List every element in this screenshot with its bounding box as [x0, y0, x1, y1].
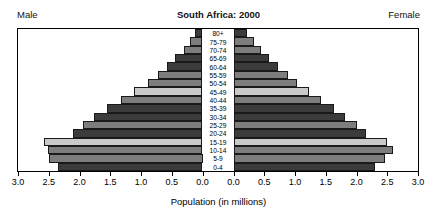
pyramid-row: 45-49 — [18, 87, 418, 95]
x-tick — [234, 172, 235, 176]
bar-female-65-69 — [234, 54, 270, 62]
x-tick — [172, 172, 173, 176]
x-tick — [418, 172, 419, 176]
bar-female-5-9 — [234, 154, 385, 162]
x-tick — [80, 172, 81, 176]
bar-male-25-29 — [83, 121, 203, 129]
bar-male-60-64 — [167, 62, 203, 70]
x-tick — [264, 172, 265, 176]
x-tick-label: 1.5 — [311, 177, 341, 188]
bar-male-0-4 — [58, 163, 203, 171]
bar-female-40-44 — [234, 96, 321, 104]
x-tick — [110, 172, 111, 176]
pyramid-row: 75-79 — [18, 37, 418, 45]
x-tick-label: 1.5 — [95, 177, 125, 188]
bars-container: 80+75-7970-7465-6960-6455-5950-5445-4940… — [18, 29, 418, 171]
x-tick-label: 0.5 — [249, 177, 279, 188]
pyramid-row: 40-44 — [18, 96, 418, 104]
bar-female-75-79 — [234, 37, 254, 45]
x-axis: 3.02.52.01.51.00.50.00.00.51.01.52.02.53… — [17, 172, 419, 194]
population-pyramid-figure: Male South Africa: 2000 Female 80+75-797… — [0, 0, 437, 216]
bar-female-15-19 — [234, 138, 388, 146]
x-tick-label: 0.0 — [188, 177, 218, 188]
bar-male-30-34 — [94, 113, 203, 121]
x-tick-label: 0.0 — [219, 177, 249, 188]
bar-female-80+ — [234, 29, 248, 37]
x-tick-label: 3.0 — [3, 177, 33, 188]
bar-female-45-49 — [234, 87, 310, 95]
plot-area: 80+75-7970-7465-6960-6455-5950-5445-4940… — [17, 28, 419, 172]
pyramid-row: 50-54 — [18, 79, 418, 87]
pyramid-row: 80+ — [18, 29, 418, 37]
pyramid-row: 35-39 — [18, 104, 418, 112]
bar-female-0-4 — [234, 163, 375, 171]
pyramid-row: 20-24 — [18, 129, 418, 137]
x-tick — [387, 172, 388, 176]
x-tick — [357, 172, 358, 176]
bar-female-60-64 — [234, 62, 279, 70]
pyramid-row: 15-19 — [18, 138, 418, 146]
pyramid-row: 5-9 — [18, 154, 418, 162]
bar-male-45-49 — [134, 87, 203, 95]
bar-male-20-24 — [73, 129, 202, 137]
bar-male-5-9 — [49, 154, 203, 162]
bar-female-35-39 — [234, 104, 334, 112]
x-axis-title: Population (in millions) — [0, 196, 437, 207]
x-tick — [141, 172, 142, 176]
pyramid-row: 70-74 — [18, 46, 418, 54]
pyramid-row: 65-69 — [18, 54, 418, 62]
x-tick — [49, 172, 50, 176]
bar-female-70-74 — [234, 46, 261, 54]
pyramid-row: 10-14 — [18, 146, 418, 154]
pyramid-row: 25-29 — [18, 121, 418, 129]
bar-female-55-59 — [234, 71, 288, 79]
x-tick-label: 2.0 — [65, 177, 95, 188]
bar-female-10-14 — [234, 146, 394, 154]
x-tick-label: 1.0 — [280, 177, 310, 188]
x-tick-label: 2.5 — [372, 177, 402, 188]
x-tick-label: 2.0 — [342, 177, 372, 188]
bar-male-40-44 — [121, 96, 203, 104]
bar-male-80+ — [195, 29, 202, 37]
bar-male-35-39 — [107, 104, 203, 112]
pyramid-row: 60-64 — [18, 62, 418, 70]
bar-male-50-54 — [148, 79, 202, 87]
bar-male-70-74 — [184, 46, 202, 54]
bar-male-55-59 — [158, 71, 202, 79]
pyramid-row: 0-4 — [18, 163, 418, 171]
x-tick-label: 1.0 — [126, 177, 156, 188]
pyramid-row: 30-34 — [18, 113, 418, 121]
x-tick — [295, 172, 296, 176]
bar-female-50-54 — [234, 79, 298, 87]
female-side-label: Female — [388, 8, 420, 22]
x-tick-label: 0.5 — [157, 177, 187, 188]
bar-male-75-79 — [190, 37, 202, 45]
pyramid-row: 55-59 — [18, 71, 418, 79]
bar-male-10-14 — [48, 146, 203, 154]
x-tick — [18, 172, 19, 176]
chart-title: South Africa: 2000 — [0, 8, 437, 22]
x-tick-label: 3.0 — [403, 177, 433, 188]
bar-female-30-34 — [234, 113, 346, 121]
bar-male-65-69 — [175, 54, 202, 62]
x-tick-label: 2.5 — [34, 177, 64, 188]
bar-male-15-19 — [44, 138, 203, 146]
bar-female-20-24 — [234, 129, 367, 137]
bar-female-25-29 — [234, 121, 357, 129]
x-tick — [326, 172, 327, 176]
x-tick — [203, 172, 204, 176]
